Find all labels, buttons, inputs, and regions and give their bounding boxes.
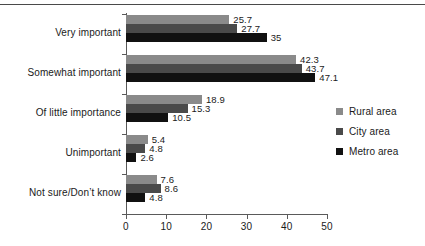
x-axis-tick	[327, 215, 328, 219]
x-axis-tick-label: 20	[201, 221, 213, 232]
legend-swatch-icon	[336, 128, 343, 135]
x-axis-tick	[287, 215, 288, 219]
legend-item-metro-area[interactable]: Metro area	[336, 141, 424, 161]
bar-0-4	[126, 175, 157, 184]
bar-value-label: 4.8	[149, 192, 163, 203]
bar-2-0	[126, 33, 267, 42]
x-axis-tick-label: 0	[123, 221, 129, 232]
x-axis-tick-label: 10	[160, 221, 172, 232]
legend-label: Rural area	[349, 106, 397, 117]
category-axis-labels: Very importantSomewhat importantOf littl…	[0, 14, 121, 214]
x-axis-tick-label: 30	[241, 221, 253, 232]
bar-0-1	[126, 55, 296, 64]
category-label: Somewhat important	[1, 67, 121, 78]
bar-value-label: 15.3	[192, 103, 211, 114]
bar-1-0	[126, 24, 237, 33]
bar-value-label: 10.5	[172, 112, 191, 123]
category-label: Very important	[1, 27, 121, 38]
legend-swatch-icon	[336, 148, 343, 155]
legend-item-city-area[interactable]: City area	[336, 121, 424, 141]
x-axis-tick	[247, 215, 248, 219]
bar-0-3	[126, 135, 148, 144]
legend-item-rural-area[interactable]: Rural area	[336, 101, 424, 121]
bar-value-label: 2.6	[140, 152, 154, 163]
bar-0-0	[126, 15, 229, 24]
bar-2-1	[126, 73, 315, 82]
chart-legend: Rural areaCity areaMetro area	[336, 101, 424, 161]
x-axis-tick	[206, 215, 207, 219]
bar-2-4	[126, 193, 145, 202]
x-axis-tick	[166, 215, 167, 219]
legend-label: Metro area	[349, 146, 398, 157]
bar-value-label: 47.1	[319, 72, 338, 83]
chart-screenshot: Very importantSomewhat importantOf littl…	[0, 0, 425, 246]
top-divider-rule	[0, 4, 425, 5]
category-label: Not sure/Don’t know	[1, 187, 121, 198]
bar-1-1	[126, 64, 302, 73]
legend-label: City area	[349, 126, 390, 137]
category-label: Unimportant	[1, 147, 121, 158]
x-axis-tick-label: 40	[281, 221, 293, 232]
bar-2-3	[126, 153, 136, 162]
x-axis-line	[126, 214, 328, 215]
category-label: Of little importance	[1, 107, 121, 118]
bar-2-2	[126, 113, 168, 122]
bar-value-label: 35	[271, 32, 282, 43]
legend-swatch-icon	[336, 108, 343, 115]
x-axis-tick-label: 50	[321, 221, 333, 232]
plot-area: 25.727.73542.343.747.118.915.310.55.44.8…	[126, 14, 327, 214]
bar-value-label: 8.6	[165, 183, 179, 194]
x-axis-tick	[126, 215, 127, 219]
